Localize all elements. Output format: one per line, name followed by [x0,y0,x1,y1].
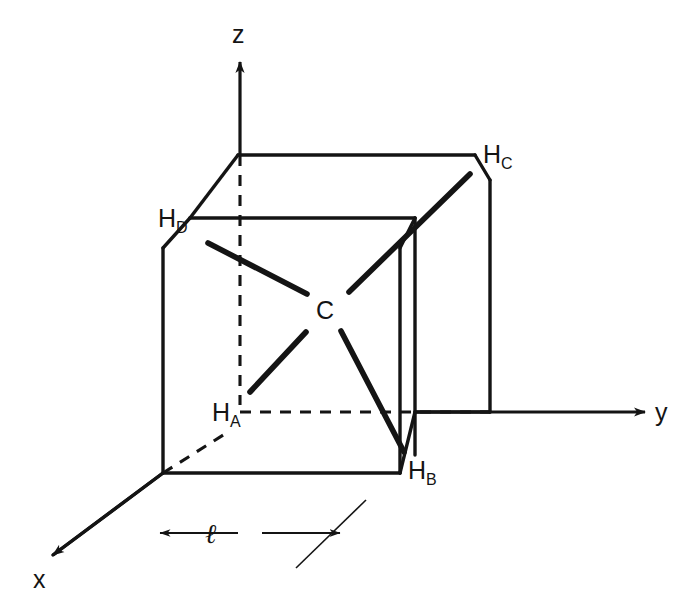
atom-symbol: H [212,398,230,426]
coordinate-axes [53,62,645,555]
bond-carbon-hydrogen-a [250,332,306,392]
bond-carbon-hydrogen-b [341,331,404,452]
figure-canvas: z y x ℓ CHAHBHCHD [0,0,680,608]
molecule-cube-diagram [0,0,680,608]
atom-subscript: B [426,471,437,488]
atom-label-hydrogen-c: HC [483,142,513,167]
atom-label-carbon: C [316,298,334,323]
bond-carbon-hydrogen-d [208,243,307,294]
atom-label-hydrogen-d: HD [158,206,188,231]
atom-symbol: H [483,140,501,168]
atom-subscript: A [230,413,241,430]
axis-label-z: z [232,22,245,47]
axis-label-x: x [33,567,46,592]
cube-hidden-edge-2 [163,432,228,473]
atom-symbol: C [316,296,334,324]
atom-symbol: H [408,456,426,484]
atom-subscript: D [176,219,188,236]
atom-label-hydrogen-a: HA [212,400,241,425]
atom-symbol: H [158,204,176,232]
axis-line-x [53,473,163,555]
cube-edge-1 [190,155,238,218]
atom-subscript: C [501,155,513,172]
bond-carbon-hydrogen-c [349,174,470,292]
axis-label-y: y [655,400,668,425]
cube-edge-length-label: ℓ [205,521,216,548]
atom-label-hydrogen-b: HB [408,458,437,483]
